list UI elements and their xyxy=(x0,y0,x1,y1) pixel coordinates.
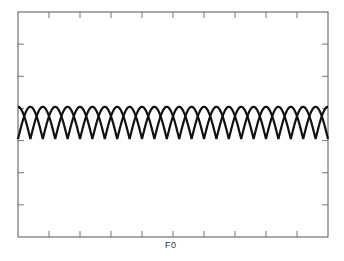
plot-area xyxy=(0,0,344,261)
x-axis-label: F0 xyxy=(165,240,177,250)
data-series xyxy=(18,107,328,139)
